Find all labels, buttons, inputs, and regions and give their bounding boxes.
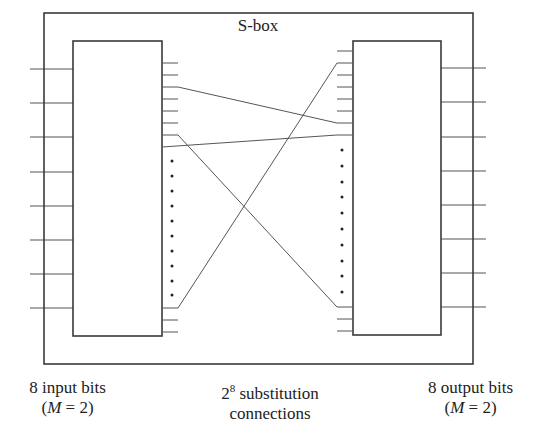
dot-icon bbox=[171, 220, 174, 223]
dot-icon bbox=[341, 196, 344, 199]
input-lines bbox=[30, 69, 73, 308]
dot-icon bbox=[341, 181, 344, 184]
dot-icon bbox=[171, 280, 174, 283]
input-bits-label: 8 input bits (M = 2) bbox=[0, 378, 135, 418]
dot-icon bbox=[171, 235, 174, 238]
dot-icon bbox=[171, 190, 174, 193]
dot-icon bbox=[171, 294, 174, 297]
encoder-box bbox=[353, 41, 441, 335]
connection-b bbox=[162, 135, 353, 307]
encoder-input-stubs bbox=[337, 51, 353, 331]
decoder-output-stubs bbox=[162, 63, 178, 332]
dot-icon bbox=[341, 212, 344, 215]
dot-icon bbox=[341, 165, 344, 168]
dot-icon bbox=[341, 291, 344, 294]
dot-icon bbox=[341, 275, 344, 278]
connection-c bbox=[162, 135, 353, 147]
ellipsis-dots bbox=[171, 149, 344, 297]
substitution-connections bbox=[162, 63, 353, 308]
connection-a bbox=[162, 87, 353, 123]
dot-icon bbox=[171, 265, 174, 268]
output-bits-label: 8 output bits (M = 2) bbox=[400, 378, 541, 418]
dot-icon bbox=[341, 228, 344, 231]
dot-icon bbox=[171, 160, 174, 163]
substitution-line2: connections bbox=[180, 404, 360, 424]
dot-icon bbox=[341, 260, 344, 263]
output-bits-line1: 8 output bits bbox=[400, 378, 541, 398]
input-bits-line2: (M = 2) bbox=[0, 398, 135, 418]
dot-icon bbox=[171, 175, 174, 178]
dot-icon bbox=[341, 244, 344, 247]
input-bits-line1: 8 input bits bbox=[0, 378, 135, 398]
output-lines bbox=[441, 68, 486, 307]
sbox-title: S-box bbox=[238, 16, 279, 35]
output-bits-line2: (M = 2) bbox=[400, 398, 541, 418]
substitution-connections-label: 28 substitution connections bbox=[180, 378, 360, 424]
dot-icon bbox=[171, 205, 174, 208]
decoder-box bbox=[73, 41, 162, 336]
dot-icon bbox=[171, 250, 174, 253]
substitution-line1: 28 substitution bbox=[180, 378, 360, 404]
connection-d bbox=[162, 63, 353, 308]
sbox-diagram: S-box bbox=[0, 0, 541, 441]
dot-icon bbox=[341, 149, 344, 152]
